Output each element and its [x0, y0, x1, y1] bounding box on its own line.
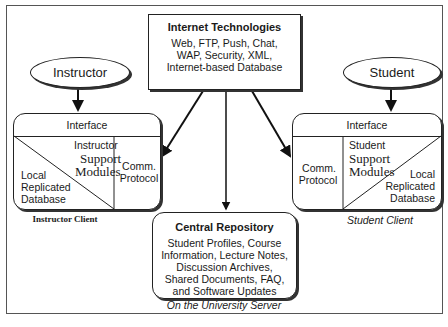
- student-client-box: Interface Comm. Protocol Student Support…: [292, 113, 442, 210]
- internet-tech-line: Web, FTP, Push, Chat,: [149, 37, 300, 49]
- instructor-client-box: Interface Instructor Support Modules Loc…: [13, 113, 161, 210]
- instructor-support-modules-line: Modules: [75, 165, 121, 178]
- instructor-local-db-line: Database: [21, 193, 66, 205]
- student-local-db-line: Database: [390, 192, 435, 204]
- instructor-local-db-line: Replicated: [21, 181, 71, 193]
- student-client-caption: Student Client: [330, 214, 430, 226]
- repository-line: Information, Lecture Notes,: [153, 249, 296, 261]
- instructor-actor: Instructor: [30, 57, 130, 88]
- student-local-db-line: Local: [410, 168, 435, 180]
- instructor-local-db-line: Local: [21, 169, 46, 181]
- student-local-db-line: Replicated: [385, 180, 435, 192]
- repository-line: and Software Updates: [153, 285, 296, 297]
- student-support-modules-line: Modules: [349, 165, 395, 178]
- instructor-comm-line: Comm.: [119, 160, 159, 172]
- repository-line: Shared Documents, FAQ,: [153, 273, 296, 285]
- repository-line: Discussion Archives,: [153, 261, 296, 273]
- instructor-client-caption: Instructor Client: [13, 214, 117, 224]
- instructor-comm-line: Protocol: [117, 172, 161, 184]
- central-repository-title: Central Repository: [153, 221, 296, 233]
- repository-line: Student Profiles, Course: [153, 237, 296, 249]
- university-server-caption: On the University Server: [148, 299, 300, 311]
- central-repository-box: Central Repository Student Profiles, Cou…: [152, 212, 297, 299]
- internet-technologies-title: Internet Technologies: [149, 21, 300, 33]
- internet-technologies-box: Internet Technologies Web, FTP, Push, Ch…: [148, 14, 301, 90]
- instructor-support-label: Instructor: [74, 139, 118, 151]
- student-support-label: Student: [349, 139, 385, 151]
- student-comm-line: Protocol: [294, 174, 342, 186]
- internet-tech-line: WAP, Security, XML,: [149, 49, 300, 61]
- internet-tech-line: Internet-based Database: [149, 61, 300, 73]
- student-actor: Student: [343, 57, 441, 88]
- student-comm-line: Comm.: [296, 162, 342, 174]
